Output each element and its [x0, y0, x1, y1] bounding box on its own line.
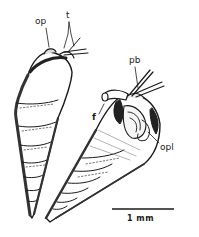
label-pb: pb: [129, 56, 140, 65]
scale-bar-label: 1 mm: [127, 214, 154, 223]
snail-illustration: [0, 0, 199, 237]
label-t: t: [66, 11, 70, 20]
label-opl: opl: [160, 143, 174, 152]
snail-figure: op t pb f opl 1 mm: [0, 0, 199, 237]
label-f: f: [92, 113, 96, 122]
label-op: op: [35, 17, 46, 26]
